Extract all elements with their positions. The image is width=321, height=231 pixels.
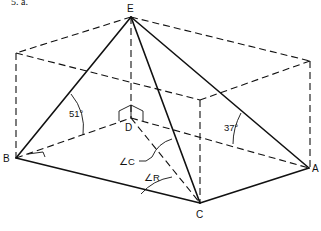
- angle-label-r: ∠R: [144, 172, 160, 183]
- angle-label-c: ∠C: [119, 156, 135, 167]
- pyramid-diagram: 5. a. 51° 37° ∠C ∠R E B D: [0, 0, 321, 231]
- problem-label: 5. a.: [11, 0, 28, 7]
- point-label-c: C: [196, 209, 203, 220]
- angle-arc-c: [139, 139, 172, 161]
- pyramid-edges: [16, 17, 309, 203]
- angle-label-51: 51°: [69, 108, 84, 119]
- angle-label-37: 37°: [224, 122, 239, 133]
- point-label-d: D: [125, 122, 132, 133]
- point-label-b: B: [3, 153, 10, 164]
- point-label-a: A: [312, 163, 319, 174]
- point-label-e: E: [127, 3, 134, 14]
